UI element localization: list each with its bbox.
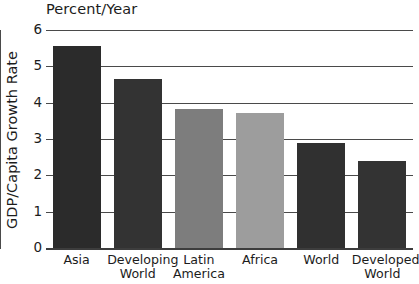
plot-area	[46, 30, 413, 248]
x-tick-label-line1: World	[291, 253, 352, 267]
x-tick-label-4: Africa	[230, 253, 291, 267]
y-tick-label-1: 1	[8, 205, 42, 219]
x-tick-label-2: DevelopingWorld	[107, 253, 168, 280]
bar-chart: Percent/Year GDP/Capita Growth Rate 6543…	[0, 0, 419, 284]
bar-developing	[114, 79, 162, 248]
chart-title: Percent/Year	[46, 1, 137, 17]
y-tick-label-2: 2	[8, 168, 42, 182]
y-tick-label-5: 5	[8, 59, 42, 73]
bar-asia	[53, 46, 101, 248]
x-axis-line	[46, 248, 413, 250]
y-axis-line	[0, 30, 1, 249]
y-tick-label-0: 0	[8, 241, 42, 255]
bar-developed	[358, 161, 406, 248]
gridline-6	[46, 30, 413, 31]
x-tick-label-line2: World	[352, 267, 413, 281]
x-tick-label-5: World	[291, 253, 352, 267]
x-tick-label-line1: Africa	[230, 253, 291, 267]
bar-world	[297, 143, 345, 248]
x-tick-label-line2: World	[107, 267, 168, 281]
y-tick-label-6: 6	[8, 23, 42, 37]
y-tick-label-3: 3	[8, 132, 42, 146]
x-tick-label-line1: Asia	[46, 253, 107, 267]
gridline-4	[46, 103, 413, 104]
bar-latin	[175, 109, 223, 248]
gridline-5	[46, 66, 413, 67]
y-axis-tick-labels: 6543210	[4, 0, 42, 284]
x-tick-label-line1: Latin	[168, 253, 229, 267]
x-tick-label-6: DevelopedWorld	[352, 253, 413, 280]
bar-africa	[236, 113, 284, 248]
gridline-3	[46, 139, 413, 140]
x-tick-label-3: LatinAmerica	[168, 253, 229, 280]
y-tick-label-4: 4	[8, 96, 42, 110]
x-tick-label-line1: Developed	[352, 253, 413, 267]
x-tick-label-1: Asia	[46, 253, 107, 267]
x-tick-label-line2: America	[168, 267, 229, 281]
x-tick-label-line1: Developing	[107, 253, 168, 267]
